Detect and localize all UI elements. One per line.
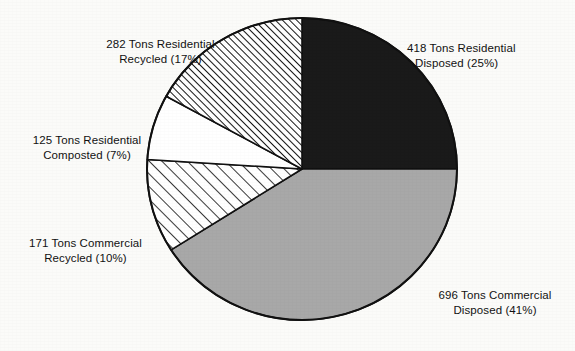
- slice-label-line1: 125 Tons Residential: [17, 133, 157, 148]
- slice-label-residential-disposed: 418 Tons Residential Disposed (25%): [407, 41, 516, 71]
- slice-label-line1: 282 Tons Residential: [93, 37, 228, 52]
- slice-label-line2: Recycled (17%): [93, 52, 228, 67]
- slice-label-residential-recycled: 282 Tons Residential Recycled (17%): [93, 37, 228, 67]
- slice-label-residential-composted: 125 Tons Residential Composted (7%): [17, 133, 157, 163]
- slice-label-line1: 696 Tons Commercial: [424, 288, 566, 303]
- slice-label-commercial-recycled: 171 Tons Commercial Recycled (10%): [13, 236, 158, 266]
- slice-label-commercial-disposed: 696 Tons Commercial Disposed (41%): [424, 288, 566, 318]
- slice-label-line2: Disposed (25%): [407, 56, 516, 71]
- slice-label-line1: 171 Tons Commercial: [13, 236, 158, 251]
- slice-label-line1: 418 Tons Residential: [407, 41, 516, 56]
- pie-chart: 418 Tons Residential Disposed (25%) 696 …: [0, 0, 575, 351]
- slice-label-line2: Disposed (41%): [424, 303, 566, 318]
- slice-label-line2: Composted (7%): [17, 148, 157, 163]
- slice-label-line2: Recycled (10%): [13, 251, 158, 266]
